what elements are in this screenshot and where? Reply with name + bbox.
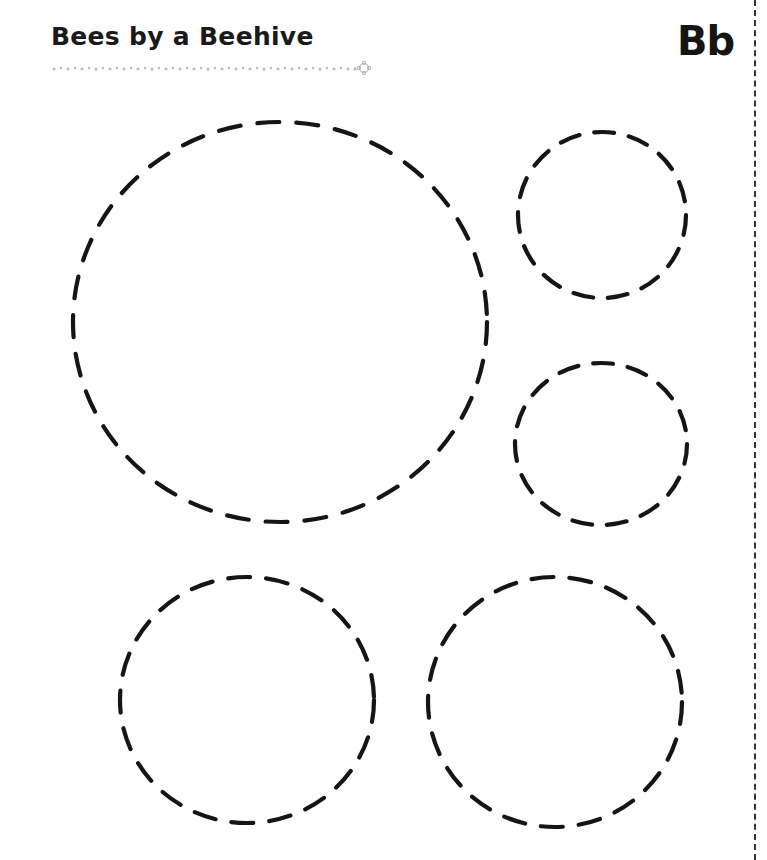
small-circle-top-right [518,132,686,298]
medium-circle-bottom-left [120,577,374,823]
worksheet-page: Bees by a Beehive Bb [0,0,767,860]
medium-circle-bottom-right [428,577,682,827]
tracing-area [0,0,767,860]
large-circle [73,122,487,522]
small-circle-middle-right [515,363,687,525]
